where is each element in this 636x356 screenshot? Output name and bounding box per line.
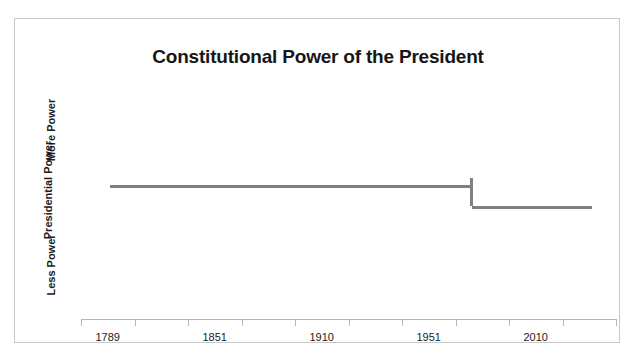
x-axis-tick [616,319,617,326]
x-axis-tick-label: 2010 [501,331,571,343]
x-axis-tick [402,319,403,326]
x-axis-tick-label: 1951 [394,331,464,343]
x-axis-tick [295,319,296,326]
x-axis-tick [188,319,189,326]
x-axis-tick-label: 1910 [287,331,357,343]
x-axis-tick [349,319,350,326]
plot-area [81,65,616,301]
x-axis-tick-label: 1789 [73,331,143,343]
chart-frame: Constitutional Power of the President Pr… [14,18,620,343]
x-axis-tick [135,319,136,326]
series-segment-low [472,206,592,209]
y-axis-label-less-power: Less Power [45,215,57,315]
chart-page: Constitutional Power of the President Pr… [0,0,636,356]
x-axis-tick [456,319,457,326]
series-segment-drop [470,178,473,206]
x-axis-tick [242,319,243,326]
x-axis-tick [509,319,510,326]
x-axis-tick [563,319,564,326]
y-axis-label-more-power: More Power [45,80,57,180]
x-axis-tick-label: 1851 [180,331,250,343]
series-segment-high [110,185,472,188]
x-axis-tick [81,319,82,326]
